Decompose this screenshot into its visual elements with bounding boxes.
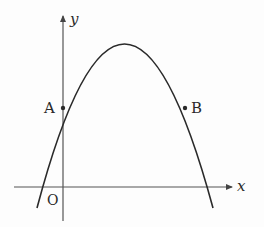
graph-canvas: A B O x y (0, 0, 264, 227)
point-a-dot (61, 106, 65, 110)
y-axis-label: y (69, 10, 79, 28)
parabola-diagram: A B O x y (0, 0, 264, 227)
point-b-label: B (191, 99, 202, 117)
origin-label: O (47, 192, 58, 208)
point-a-label: A (43, 99, 55, 117)
point-b-dot (183, 106, 187, 110)
x-axis-label: x (237, 177, 246, 195)
